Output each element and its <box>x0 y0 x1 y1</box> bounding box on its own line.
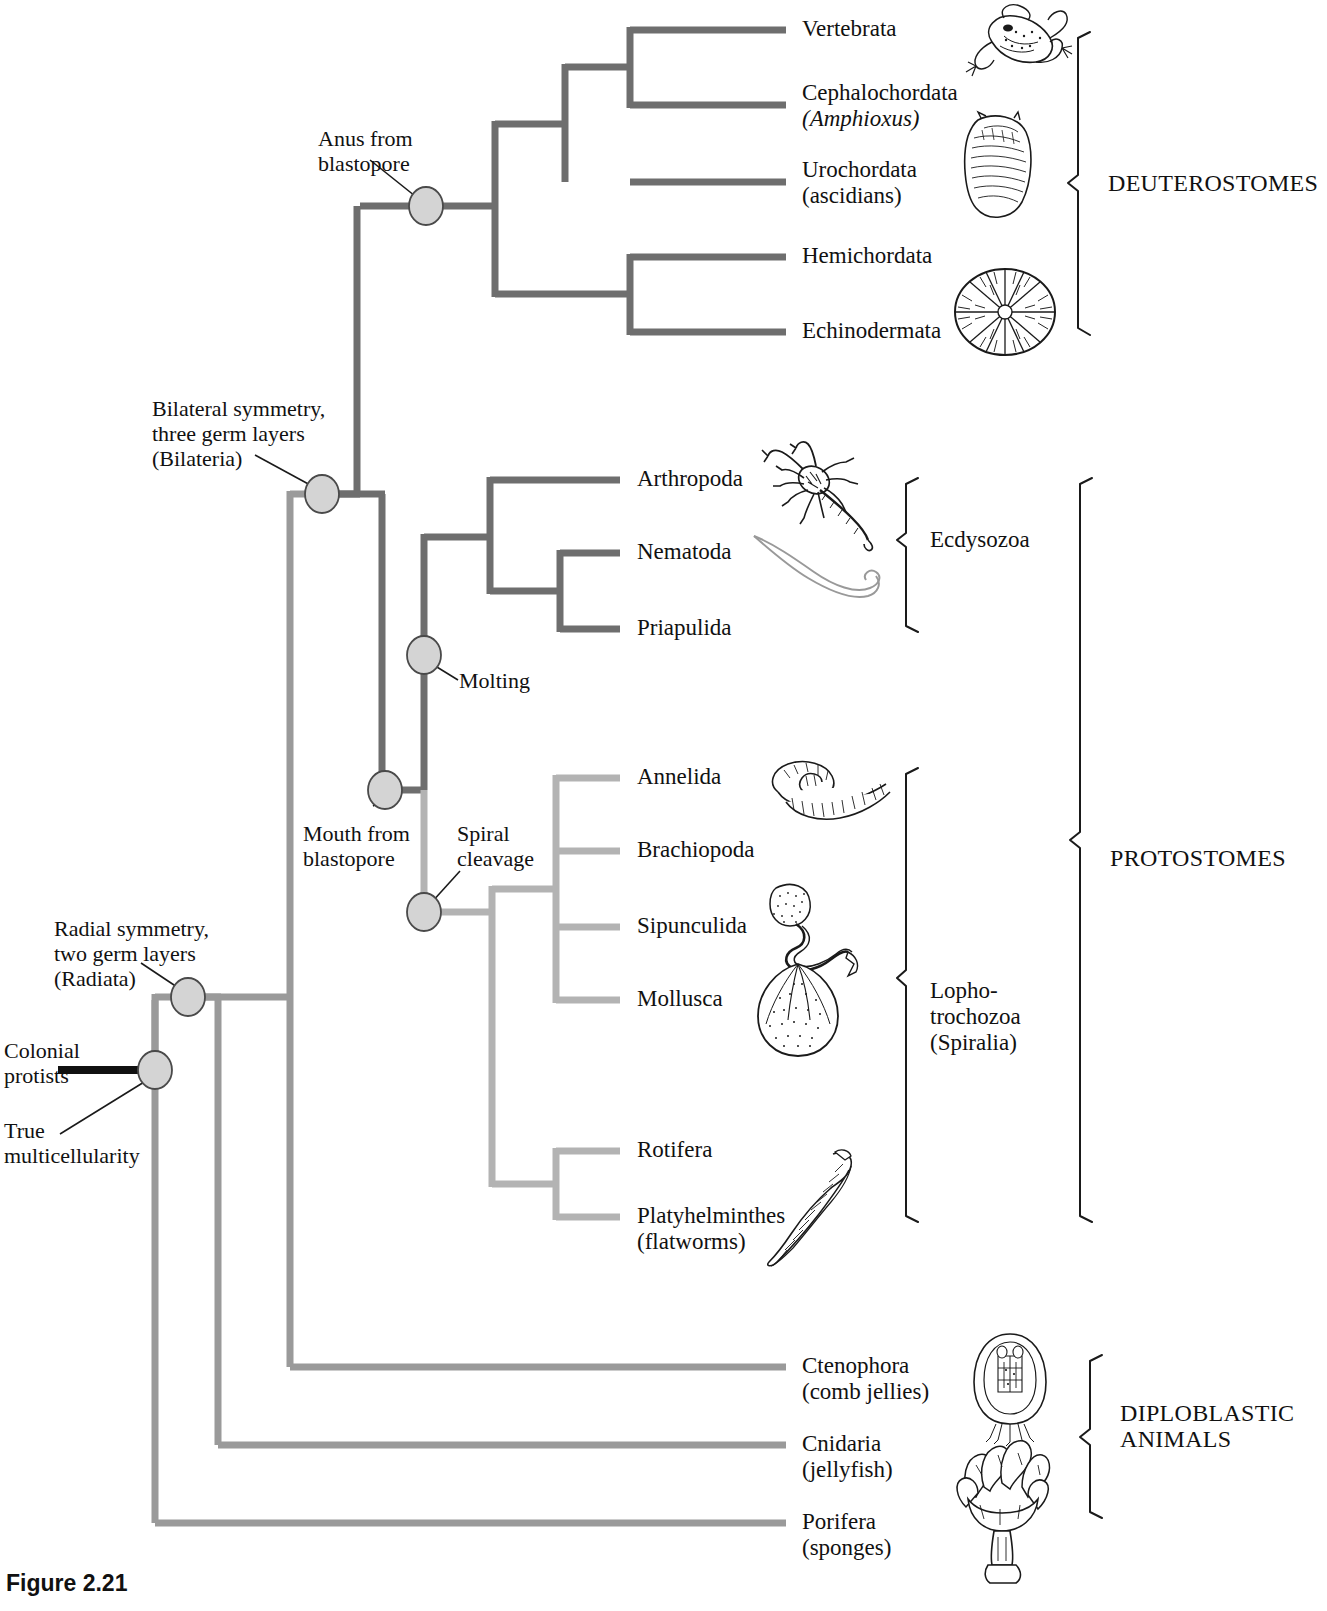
node-spiral-cleavage[interactable] <box>407 893 441 931</box>
taxon-name: Brachiopoda <box>637 837 755 862</box>
taxon-name: Platyhelminthes <box>637 1203 785 1228</box>
taxon-name: Arthropoda <box>637 466 743 491</box>
figure-page: Vertebrata Cephalochordata (Amphioxus) U… <box>0 0 1327 1611</box>
bracket-lophotrochozoa <box>897 768 918 1222</box>
node-label-radiata: Radial symmetry, two germ layers (Radiat… <box>54 916 209 991</box>
taxon-label-echinodermata: Echinodermata <box>802 318 941 344</box>
taxon-label-ctenophora: Ctenophora (comb jellies) <box>802 1353 929 1405</box>
taxon-label-sipunculida: Sipunculida <box>637 913 747 939</box>
node-label-spiral-cleavage: Spiral cleavage <box>457 821 534 871</box>
node-label-line: Molting <box>459 668 530 693</box>
taxon-name: Cephalochordata <box>802 80 958 105</box>
group-label-diploblastic-animals: DIPLOBLASTIC ANIMALS <box>1120 1400 1294 1452</box>
taxon-label-mollusca: Mollusca <box>637 986 723 1012</box>
taxon-name: Cnidaria <box>802 1431 881 1456</box>
ascidian-illustration <box>965 112 1031 217</box>
taxon-sub: (comb jellies) <box>802 1379 929 1405</box>
node-label-line: blastopore <box>303 846 395 871</box>
taxon-sub: (Amphioxus) <box>802 106 958 132</box>
node-label-mouth-from-blastopore: Mouth from blastopore <box>303 821 410 871</box>
taxon-name: Priapulida <box>637 615 732 640</box>
taxon-label-rotifera: Rotifera <box>637 1137 712 1163</box>
node-label-line: protists <box>4 1063 69 1088</box>
sea-urchin-illustration <box>955 269 1055 355</box>
node-label-line: Mouth from <box>303 821 410 846</box>
group-label-text: (Spiralia) <box>930 1030 1017 1055</box>
node-label-line: (Radiata) <box>54 966 136 991</box>
node-label-line: three germ layers <box>152 421 305 446</box>
taxon-name: Rotifera <box>637 1137 712 1162</box>
group-label-text: ANIMALS <box>1120 1426 1231 1452</box>
taxon-name: Sipunculida <box>637 913 747 938</box>
node-label-line: blastopore <box>318 151 410 176</box>
node-label-line: Radial symmetry, <box>54 916 209 941</box>
taxon-label-cephalochordata: Cephalochordata (Amphioxus) <box>802 80 958 132</box>
ctenophore-illustration <box>974 1334 1046 1446</box>
sponge-illustration <box>957 1441 1049 1583</box>
taxon-name: Echinodermata <box>802 318 941 343</box>
nematode-illustration <box>754 536 879 597</box>
taxon-sub: (flatworms) <box>637 1229 785 1255</box>
bracket-deuterostomes <box>1068 32 1090 335</box>
node-label-line: two germ layers <box>54 941 196 966</box>
taxon-sub: (ascidians) <box>802 183 917 209</box>
group-label-protostomes: PROTOSTOMES <box>1110 845 1286 871</box>
bracket-diploblastic <box>1080 1355 1102 1518</box>
taxon-label-vertebrata: Vertebrata <box>802 16 897 42</box>
taxon-label-arthropoda: Arthropoda <box>637 466 743 492</box>
sipunculid-illustration <box>770 884 858 976</box>
group-label-text: Lopho- <box>930 978 998 1003</box>
node-label-colonial-protists: Colonial protists <box>4 1038 80 1088</box>
node-anus-from-blastopore[interactable] <box>409 187 443 225</box>
taxon-name: Urochordata <box>802 157 917 182</box>
node-label-line: Anus from <box>318 126 413 151</box>
bracket-ecdysozoa <box>897 478 918 632</box>
figure-caption: Figure 2.21 <box>6 1570 127 1597</box>
node-bilateria[interactable] <box>305 475 339 513</box>
taxon-name: Hemichordata <box>802 243 932 268</box>
taxon-label-priapulida: Priapulida <box>637 615 732 641</box>
taxon-label-brachiopoda: Brachiopoda <box>637 837 755 863</box>
node-label-anus-from-blastopore: Anus from blastopore <box>318 126 413 176</box>
node-label-molting: Molting <box>459 668 530 693</box>
node-molting[interactable] <box>407 636 441 674</box>
group-label-ecdysozoa: Ecdysozoa <box>930 527 1030 553</box>
taxon-name: Ctenophora <box>802 1353 909 1378</box>
node-label-bilateria: Bilateral symmetry, three germ layers (B… <box>152 396 325 471</box>
node-label-line: cleavage <box>457 846 534 871</box>
node-label-line: Bilateral symmetry, <box>152 396 325 421</box>
taxon-label-cnidaria: Cnidaria (jellyfish) <box>802 1431 893 1483</box>
earthworm-illustration <box>773 762 890 820</box>
taxon-name: Porifera <box>802 1509 876 1534</box>
frog-illustration <box>966 5 1072 76</box>
node-label-line: True <box>4 1118 45 1143</box>
taxon-label-hemichordata: Hemichordata <box>802 243 932 269</box>
taxon-label-platyhelminthes: Platyhelminthes (flatworms) <box>637 1203 785 1255</box>
organism-illustration-group <box>754 5 1072 1583</box>
taxon-label-annelida: Annelida <box>637 764 721 790</box>
group-label-text: PROTOSTOMES <box>1110 845 1286 871</box>
taxon-name: Mollusca <box>637 986 723 1011</box>
mollusc-illustration <box>758 964 838 1056</box>
taxon-sub: (jellyfish) <box>802 1457 893 1483</box>
bracket-protostomes <box>1070 478 1092 1222</box>
taxon-label-porifera: Porifera (sponges) <box>802 1509 891 1561</box>
node-label-true-multicellularity: True multicellularity <box>4 1118 140 1168</box>
node-true-multicellularity[interactable] <box>138 1051 172 1089</box>
group-label-deuterostomes: DEUTEROSTOMES <box>1108 170 1318 196</box>
group-label-text: trochozoa <box>930 1004 1021 1029</box>
phylogenetic-tree <box>0 0 1327 1611</box>
taxon-sub: (sponges) <box>802 1535 891 1561</box>
group-label-text: DIPLOBLASTIC <box>1120 1400 1294 1426</box>
group-label-text: DEUTEROSTOMES <box>1108 170 1318 196</box>
group-label-lophotrochozoa: Lopho- trochozoa (Spiralia) <box>930 978 1021 1056</box>
taxon-label-urochordata: Urochordata (ascidians) <box>802 157 917 209</box>
group-label-text: Ecdysozoa <box>930 527 1030 552</box>
node-label-line: (Bilateria) <box>152 446 242 471</box>
taxon-label-nematoda: Nematoda <box>637 539 732 565</box>
taxon-name: Nematoda <box>637 539 732 564</box>
node-label-line: Spiral <box>457 821 510 846</box>
node-mouth-from-blastopore[interactable] <box>368 771 402 809</box>
taxon-name: Annelida <box>637 764 721 789</box>
scorpion-illustration <box>762 442 872 551</box>
